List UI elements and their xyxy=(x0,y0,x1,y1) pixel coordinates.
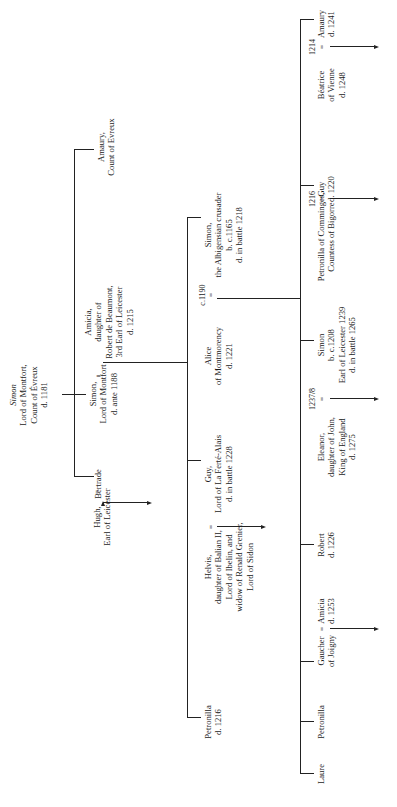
marriage-year-simon-alice: c.1190 xyxy=(198,284,207,305)
arrowhead-guy xyxy=(261,526,266,530)
spouse-amicia: Amicia, daughter of Robert de Beaumont, … xyxy=(83,285,135,358)
gen3-drop-amaury xyxy=(300,19,314,20)
simon-amicia-descent xyxy=(103,362,187,363)
descent-arrow-hugh-line xyxy=(103,502,148,503)
gen2-drop-guy xyxy=(187,460,201,461)
spouse-helvis: Helvis, daughter of Balian II, Lord of I… xyxy=(203,522,255,611)
marriage-symbol-amaury-beatrice: = xyxy=(318,45,327,50)
gen3-drop-robert xyxy=(300,544,314,545)
marriage-year-amaury-beatrice: 1214 xyxy=(308,39,317,55)
gen1-sibling-bar xyxy=(74,150,75,477)
marriage-symbol-amicia-gaucher: = xyxy=(318,627,327,632)
simon-alice-descent xyxy=(217,298,300,299)
descent-arrow-amicia-line xyxy=(330,628,375,629)
gen3-drop-amicia xyxy=(300,661,314,662)
person-simon-montfort: Simon, Lord of Montfort d. ante 1188 xyxy=(88,364,119,423)
arrowhead-hugh xyxy=(147,502,152,506)
spouse-eleanor: Eleanor, daughter of John, King of Engla… xyxy=(316,417,358,477)
descent-arrow-amaury-line xyxy=(330,46,375,47)
descent-arrow-simon-line xyxy=(330,398,375,399)
spouse-beatrice: Béatrice of Vienne d. 1248 xyxy=(316,68,347,101)
gen1-drop-bertrade xyxy=(74,476,94,477)
gen2-drop-petronilla xyxy=(187,717,201,718)
marriage-symbol-simon-alice: = xyxy=(207,293,216,298)
spouse-alice: Alice of Montmorency d. 1221 xyxy=(203,327,234,385)
gen3-drop-guy xyxy=(300,185,314,186)
gen2-sibling-bar xyxy=(187,218,188,718)
person-robert-1226: Robert d. 1226 xyxy=(316,532,337,558)
person-amicia-1253: Amicia d. 1253 xyxy=(316,598,337,624)
spouse-hugh: Hugh, Earl of Leicester xyxy=(92,488,113,545)
gen3-drop-simon xyxy=(300,340,314,341)
gen3-drop-petronilla xyxy=(300,721,314,722)
marriage-symbol-simon-amicia: = xyxy=(96,372,101,381)
arrowhead-amicia xyxy=(374,628,379,632)
marriage-symbol-simon-eleanor: = xyxy=(318,397,327,402)
root-node: Simon Lord of Montfort, Count of Évreux … xyxy=(8,364,50,425)
person-petronilla: Petronilla xyxy=(316,705,326,738)
person-guy-ferte: Guy, Lord of La Ferté-Alais d. in battle… xyxy=(203,435,234,513)
person-petronilla-1216: Petronilla d. 1216 xyxy=(203,705,224,738)
person-laure: Laure xyxy=(316,764,326,784)
arrowhead-guy1220 xyxy=(374,198,379,202)
person-simon-crusader: Simon, the Albigensian crusader b. c.116… xyxy=(203,193,245,278)
root-connector xyxy=(62,394,74,395)
arrowhead-amaury xyxy=(374,46,379,50)
root-name: Simon xyxy=(8,364,18,425)
gen1-drop-amaury xyxy=(74,149,94,150)
gen2-drop-simon xyxy=(187,217,201,218)
family-tree-diagram: Simon Lord of Montfort, Count of Évreux … xyxy=(0,0,397,807)
person-amaury-1241: Amaury d. 1241 xyxy=(316,10,337,38)
arrowhead-simon xyxy=(374,398,379,402)
gen1-drop-simon xyxy=(74,394,86,395)
marriage-year-simon-eleanor: 1237/8 xyxy=(308,388,317,410)
gen3-drop-laure xyxy=(300,773,314,774)
spouse-petronilla-comminges: Petronilla of Comminges, Countess of Big… xyxy=(316,193,337,282)
spouse-gaucher: Gaucher of Joigny xyxy=(316,635,337,667)
person-amaury-evreux: Amaury, Count of Evreux xyxy=(96,118,117,175)
person-simon-leicester: Simon b. c.1208 Earl of Leicester 1239 d… xyxy=(316,307,358,384)
